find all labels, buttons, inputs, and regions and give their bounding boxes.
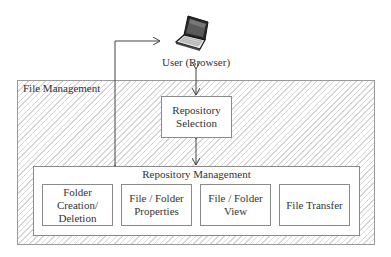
module-file-transfer: File Transfer bbox=[279, 184, 350, 226]
module-file-folder-properties: File / Folder Properties bbox=[121, 184, 192, 226]
module-label-line: File Transfer bbox=[286, 199, 343, 212]
module-label-line: Folder bbox=[57, 186, 98, 199]
repository-selection-label-1: Repository bbox=[172, 104, 220, 117]
module-label-line: View bbox=[208, 205, 262, 218]
module-label-line: Creation/ bbox=[57, 199, 98, 212]
repository-selection-box: Repository Selection bbox=[161, 96, 232, 138]
repository-selection-label-2: Selection bbox=[172, 117, 220, 130]
module-label-line: File / Folder bbox=[208, 192, 262, 205]
module-label-line: Deletion bbox=[57, 212, 98, 225]
module-label-line: File / Folder bbox=[129, 192, 183, 205]
module-folder-creation-deletion: Folder Creation/ Deletion bbox=[42, 184, 113, 226]
repository-management-label: Repository Management bbox=[33, 168, 360, 180]
module-file-folder-view: File / Folder View bbox=[200, 184, 271, 226]
module-label-line: Properties bbox=[129, 205, 183, 218]
